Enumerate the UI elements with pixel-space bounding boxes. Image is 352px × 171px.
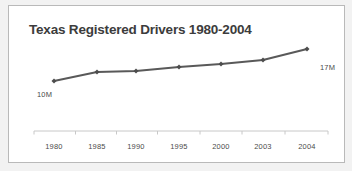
data-point-marker [52, 79, 57, 84]
data-point-marker [134, 69, 139, 74]
data-series-line [54, 49, 307, 81]
data-label-start: 10M [37, 90, 52, 99]
x-axis-tick-label: 1995 [170, 142, 188, 151]
data-point-marker [95, 70, 100, 75]
x-axis-tick-label: 2000 [212, 142, 230, 151]
data-point-markers [52, 47, 310, 84]
x-axis-tick-label: 2004 [298, 142, 316, 151]
data-label-end: 17M [320, 63, 335, 72]
data-point-marker [261, 58, 266, 63]
x-axis [34, 131, 328, 135]
chart-card: Texas Registered Drivers 1980-2004 10M 1… [8, 5, 345, 163]
line-chart-plot [9, 6, 345, 163]
x-axis-tick-label: 1985 [88, 142, 106, 151]
x-axis-tick-label: 2003 [254, 142, 272, 151]
data-point-marker [305, 47, 310, 52]
x-axis-tick-label: 1980 [45, 142, 63, 151]
x-axis-tick-label: 1990 [127, 142, 145, 151]
data-point-marker [219, 62, 224, 67]
data-point-marker [177, 65, 182, 70]
